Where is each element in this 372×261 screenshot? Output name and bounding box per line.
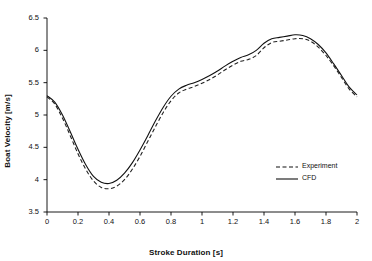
tick-marks [44, 18, 358, 216]
legend-item-cfd: CFD [302, 174, 316, 181]
legend-item-experiment: Experiment [302, 162, 337, 169]
chart-container: Boat Velocity [m/s] Stroke Duration [s] … [0, 0, 372, 261]
plot-area [0, 0, 372, 261]
legend-sample-lines [276, 167, 298, 179]
axis-lines [47, 18, 357, 212]
